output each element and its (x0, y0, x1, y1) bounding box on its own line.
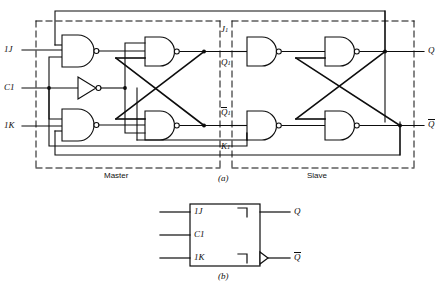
symbol-q-bar-output-label: Q (294, 253, 301, 262)
master-latch-nand-qbar-gate (145, 111, 179, 140)
part-b-caption: (b) (218, 272, 229, 281)
overbar (428, 119, 435, 120)
slave-block-label: Slave (307, 172, 327, 180)
inv-to-latch-q-wire (125, 43, 145, 88)
junction-dot (123, 86, 127, 90)
k-input-label: 1K (4, 121, 15, 130)
symbol-clock-input-label: C1 (194, 230, 205, 239)
j-input-label: 1J (4, 45, 13, 54)
symbol-k-input-label: 1K (194, 253, 205, 262)
symbol-q-output-label: Q (294, 207, 301, 216)
master-block-label: Master (104, 172, 128, 180)
clock-to-j-nand-wire (49, 57, 62, 88)
clock-input-label: C1 (4, 83, 15, 92)
logic-symbol (160, 204, 290, 266)
q-output-label: Q (428, 46, 435, 55)
slave-latch-nand-q-gate (325, 37, 359, 66)
master-input-nand-k-gate (62, 109, 99, 141)
overbar (294, 252, 301, 253)
figure-container: 1J C1 1K J1 Q1 Q1 K1 Q Q Master Slave (a… (0, 0, 448, 290)
q-bar-output-label: Q (428, 120, 435, 129)
clock-inverter-gate (78, 77, 101, 99)
slave-input-nand-k-gate (247, 111, 281, 140)
negation-indicator-icon (260, 252, 268, 264)
j1-node-label: J1 (221, 25, 228, 34)
clock-to-k-nand-wire (49, 88, 62, 119)
q1-bar-node-label: Q1 (221, 108, 231, 117)
k1-node-label: K1 (221, 142, 230, 151)
slave-latch-nand-qbar-gate (325, 111, 359, 140)
symbol-j-input-label: 1J (194, 207, 203, 216)
overbar (221, 107, 227, 108)
part-a-caption: (a) (218, 174, 229, 183)
q1-node-label: Q1 (221, 58, 231, 67)
slave-input-nand-j-gate (247, 37, 281, 66)
master-input-nand-j-gate (62, 35, 99, 67)
master-latch-nand-q-gate (145, 37, 179, 66)
